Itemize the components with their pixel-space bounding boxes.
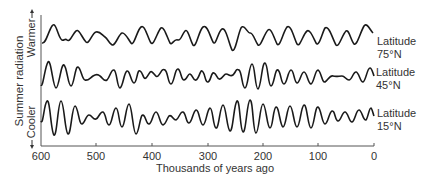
x-tick-label: 100 [309, 150, 327, 162]
chart-svg: 600 500 400 300 200 100 0 Thousands of y… [0, 0, 427, 181]
x-tick-label: 400 [143, 150, 161, 162]
cooler-label: Cooler [25, 105, 37, 138]
x-tick-labels: 600 500 400 300 200 100 0 [32, 150, 377, 162]
x-tick-label: 0 [371, 150, 377, 162]
y-axis-title: Summer radiation [13, 36, 25, 127]
series-labels: Latitude 75°N Latitude 45°N Latitude 15°… [376, 35, 416, 132]
series-75n-line [42, 25, 373, 51]
series-15n-line [41, 100, 374, 135]
x-axis-title: Thousands of years ago [156, 162, 274, 174]
warmer-label: Warmer [25, 18, 37, 57]
warmer-arrow-icon [30, 9, 34, 18]
label-45n-line1: Latitude [376, 66, 415, 78]
label-75n-line1: Latitude [377, 35, 416, 47]
x-tick-label: 500 [87, 150, 105, 162]
label-75n-line2: 75°N [377, 48, 402, 60]
x-tick-label: 200 [254, 150, 272, 162]
label-15n-line1: Latitude [377, 107, 416, 119]
label-45n-line2: 45°N [376, 79, 401, 91]
cooler-arrow-icon [30, 140, 34, 149]
x-tick-label: 600 [32, 150, 50, 162]
series-45n-line [41, 62, 374, 89]
label-15n-line2: 15°N [377, 120, 402, 132]
x-tick-label: 300 [199, 150, 217, 162]
